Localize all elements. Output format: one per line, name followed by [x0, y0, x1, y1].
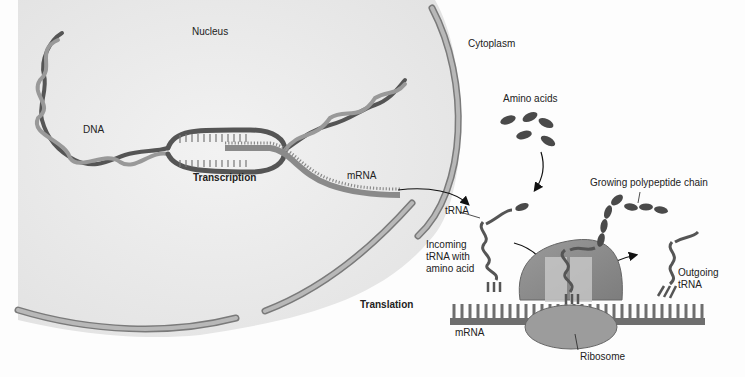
nucleus-region	[18, 0, 461, 337]
incoming-trna-label-line2: tRNA with	[426, 251, 470, 263]
outgoing-trna-label-line1: Outgoing	[678, 267, 719, 279]
incoming-trna-label-line1: Incoming	[426, 239, 467, 251]
amino-acid-arrow	[535, 152, 543, 190]
mrna-label-nucleus: mRNA	[347, 170, 376, 182]
amino-acids-label: Amino acids	[503, 93, 557, 105]
outgoing-trna-label-line2: tRNA	[678, 279, 702, 291]
cytoplasm-label: Cytoplasm	[468, 38, 515, 50]
dna-label: DNA	[83, 124, 104, 136]
trna-amino-acid	[514, 201, 530, 212]
polypeptide-chain	[596, 192, 669, 247]
incoming-trna-label-line3: amino acid	[426, 263, 474, 275]
diagram-canvas: Nucleus Cytoplasm DNA Transcription mRNA…	[0, 0, 745, 377]
translation-label: Translation	[360, 299, 413, 311]
growing-polypeptide-chain-label: Growing polypeptide chain	[590, 177, 708, 189]
trna-incoming	[481, 210, 512, 292]
mrna-label-cytoplasm: mRNA	[455, 327, 484, 339]
trna-label: tRNA	[445, 205, 469, 217]
polypeptide-leader	[638, 192, 640, 203]
ribosome-label: Ribosome	[580, 351, 625, 363]
nucleus-label: Nucleus	[192, 26, 228, 38]
ribosome-small-subunit	[525, 305, 617, 349]
transcription-label: Transcription	[193, 172, 256, 184]
amino-acids	[499, 110, 557, 148]
